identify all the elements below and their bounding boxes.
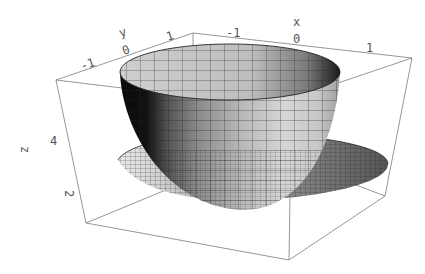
x-tick-1: 1 bbox=[366, 41, 373, 55]
x-axis-label: x bbox=[293, 15, 300, 29]
surface-plot: y -1 0 1 x -1 0 1 z 4 2 bbox=[0, 0, 425, 274]
z-axis: z 4 2 bbox=[18, 134, 76, 197]
y-tick-0: 0 bbox=[120, 42, 131, 58]
z-axis-label: z bbox=[18, 146, 32, 153]
y-tick-neg1: -1 bbox=[79, 55, 97, 73]
x-tick-neg1: -1 bbox=[226, 26, 240, 40]
z-tick-2: 2 bbox=[62, 190, 76, 197]
z-tick-4: 4 bbox=[50, 134, 57, 148]
y-axis-label: y bbox=[117, 25, 128, 41]
y-tick-1: 1 bbox=[164, 28, 175, 44]
x-tick-0: 0 bbox=[293, 32, 300, 46]
